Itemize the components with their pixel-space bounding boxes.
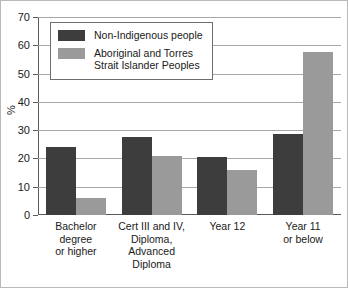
y-tick-label: 50 xyxy=(4,69,30,80)
y-tick-label: 10 xyxy=(4,182,30,193)
bar xyxy=(227,170,257,215)
legend-item: Non-Indigenous people xyxy=(58,29,205,42)
y-tick-label: 40 xyxy=(4,97,30,108)
legend-swatch-non-indigenous xyxy=(58,30,85,41)
bar xyxy=(46,147,76,215)
chart-legend: Non-Indigenous people Aboriginal and Tor… xyxy=(50,22,213,80)
legend-label-aboriginal-torres-strait: Aboriginal and Torres Strait Islander Pe… xyxy=(94,47,200,72)
y-tick-label: 20 xyxy=(4,153,30,164)
y-tick-label: 70 xyxy=(4,12,30,23)
bar xyxy=(76,198,106,215)
legend-label-non-indigenous: Non-Indigenous people xyxy=(94,29,203,42)
bar xyxy=(197,157,227,215)
bar-chart: % 706050403020100 Bachelor degree or hig… xyxy=(0,0,348,288)
bar xyxy=(273,134,303,215)
bar xyxy=(152,156,182,215)
y-tick-label: 30 xyxy=(4,125,30,136)
legend-item: Aboriginal and Torres Strait Islander Pe… xyxy=(58,47,205,72)
bar xyxy=(303,52,333,215)
y-tick-mark xyxy=(33,215,38,216)
y-tick-label: 60 xyxy=(4,40,30,51)
legend-swatch-aboriginal-torres-strait xyxy=(58,48,85,59)
y-tick-label: 0 xyxy=(4,210,30,221)
bar xyxy=(122,137,152,215)
x-tick-label: Year 11 or below xyxy=(258,220,348,245)
